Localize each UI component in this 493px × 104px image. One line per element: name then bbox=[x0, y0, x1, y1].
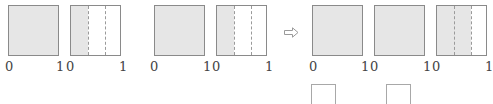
division-line bbox=[234, 6, 235, 55]
axis-label-zero: 0 bbox=[432, 60, 440, 73]
answer-blank-2[interactable] bbox=[386, 84, 411, 104]
division-line bbox=[454, 6, 455, 55]
shaded-region bbox=[217, 6, 234, 55]
axis-label-one: 1 bbox=[423, 60, 431, 73]
axis-label-one: 1 bbox=[119, 60, 127, 73]
division-line bbox=[88, 6, 89, 55]
axis-label-one: 1 bbox=[361, 60, 369, 73]
division-line bbox=[105, 6, 106, 55]
axis-label-zero: 0 bbox=[150, 60, 158, 73]
axis-label-one: 1 bbox=[56, 60, 64, 73]
axis-label-one: 1 bbox=[265, 60, 273, 73]
division-line bbox=[251, 6, 252, 55]
axis-label-one: 1 bbox=[485, 60, 493, 73]
third-square-2 bbox=[216, 5, 267, 56]
third-square-1 bbox=[70, 5, 121, 56]
axis-label-zero: 0 bbox=[66, 60, 74, 73]
axis-label-zero: 0 bbox=[5, 60, 13, 73]
shaded-region bbox=[9, 6, 58, 55]
whole-square-3 bbox=[312, 5, 363, 56]
axis-label-zero: 0 bbox=[309, 60, 317, 73]
axis-label-zero: 0 bbox=[370, 60, 378, 73]
shaded-region bbox=[155, 6, 204, 55]
axis-label-zero: 0 bbox=[212, 60, 220, 73]
shaded-region bbox=[375, 6, 424, 55]
division-line bbox=[471, 6, 472, 55]
whole-square-4 bbox=[374, 5, 425, 56]
two-thirds-square bbox=[436, 5, 487, 56]
whole-square-1 bbox=[8, 5, 59, 56]
answer-blank-1[interactable] bbox=[311, 84, 336, 104]
right-arrow-icon bbox=[284, 27, 299, 38]
whole-square-2 bbox=[154, 5, 205, 56]
shaded-region bbox=[71, 6, 88, 55]
axis-label-one: 1 bbox=[203, 60, 211, 73]
shaded-region bbox=[313, 6, 362, 55]
